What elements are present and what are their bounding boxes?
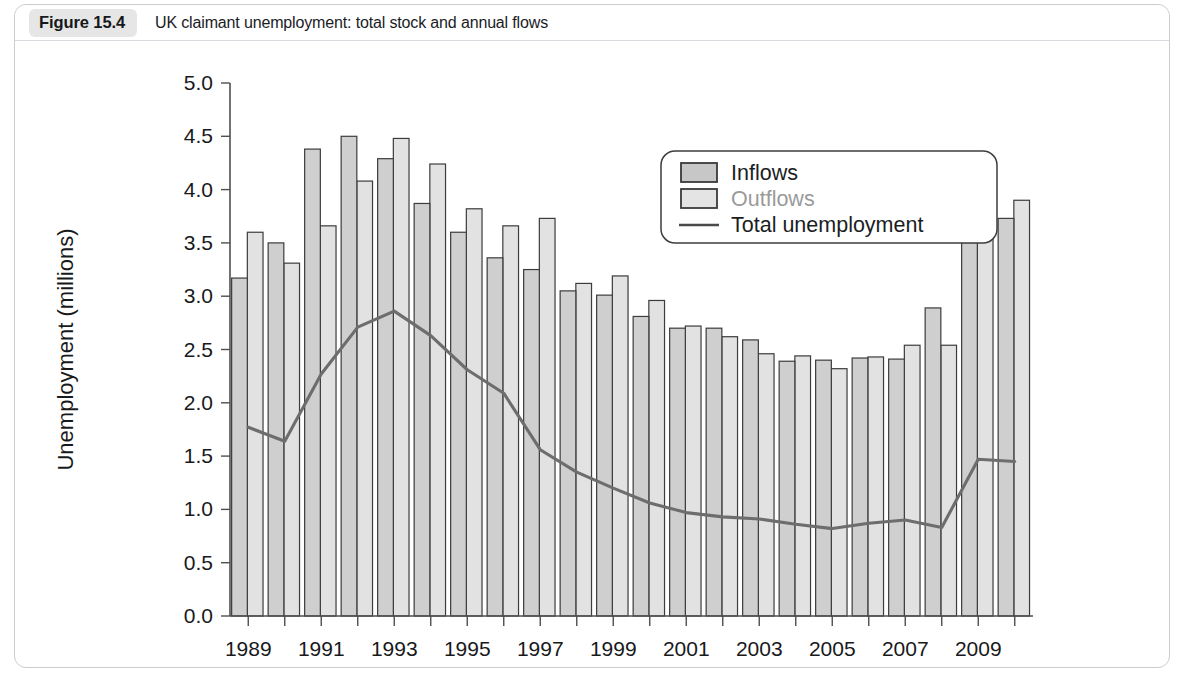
- bar-outflows: [758, 354, 774, 616]
- chart-plot-area: 0.00.51.01.52.02.53.03.54.04.55.0 198919…: [15, 41, 1169, 667]
- bar-outflows: [357, 181, 373, 616]
- bar-inflows: [889, 359, 905, 616]
- y-tick-label: 3.0: [184, 284, 213, 307]
- x-tick-label: 1993: [371, 637, 418, 660]
- y-tick-label: 4.5: [184, 124, 213, 147]
- figure-card: Figure 15.4 UK claimant unemployment: to…: [14, 4, 1170, 668]
- bar-outflows: [1014, 200, 1030, 616]
- x-tick-label: 2003: [736, 637, 783, 660]
- y-tick-label: 3.5: [184, 231, 213, 254]
- bar-outflows: [247, 232, 263, 616]
- x-tick-label: 2005: [809, 637, 856, 660]
- y-tick-label: 2.5: [184, 338, 213, 361]
- bar-inflows: [852, 358, 868, 616]
- bar-outflows: [539, 218, 555, 616]
- bar-inflows: [633, 316, 649, 616]
- bar-inflows: [451, 232, 467, 616]
- chart-legend: Inflows Outflows Total unemployment: [661, 151, 997, 243]
- y-tick-label: 1.0: [184, 497, 213, 520]
- bar-inflows: [998, 218, 1014, 616]
- bar-outflows: [576, 283, 592, 616]
- bar-outflows: [649, 300, 665, 616]
- x-tick-label: 1997: [517, 637, 564, 660]
- bar-inflows: [670, 328, 686, 616]
- y-tick-label: 2.0: [184, 391, 213, 414]
- x-tick-label: 1999: [590, 637, 637, 660]
- bar-outflows: [831, 369, 847, 616]
- bar-inflows: [560, 291, 576, 616]
- x-tick-label: 1989: [225, 637, 272, 660]
- bar-outflows: [795, 356, 811, 616]
- figure-title: UK claimant unemployment: total stock an…: [155, 14, 548, 32]
- bar-inflows: [487, 258, 503, 616]
- legend-swatch-inflows: [681, 163, 717, 182]
- bar-outflows: [466, 209, 482, 616]
- y-axis-ticks: 0.00.51.01.52.02.53.03.54.04.55.0: [184, 71, 230, 627]
- legend-swatch-outflows: [681, 189, 717, 208]
- bar-inflows: [414, 203, 430, 616]
- bar-inflows: [341, 136, 357, 616]
- legend-label-total: Total unemployment: [731, 213, 923, 237]
- bar-inflows: [816, 360, 832, 616]
- bar-outflows: [393, 138, 409, 616]
- x-tick-label: 1991: [298, 637, 345, 660]
- bar-inflows: [597, 295, 613, 616]
- y-tick-label: 0.5: [184, 551, 213, 574]
- legend-label-outflows: Outflows: [731, 187, 815, 211]
- bar-inflows: [743, 340, 759, 616]
- bar-outflows: [430, 164, 446, 616]
- bar-outflows: [941, 345, 957, 616]
- unemployment-chart: 0.00.51.01.52.02.53.03.54.04.55.0 198919…: [15, 41, 1169, 667]
- bar-inflows: [268, 243, 284, 616]
- bar-inflows: [925, 308, 941, 616]
- bar-inflows: [232, 278, 248, 616]
- y-tick-label: 0.0: [184, 604, 213, 627]
- y-tick-label: 5.0: [184, 71, 213, 94]
- bar-inflows: [779, 361, 795, 616]
- figure-number-badge: Figure 15.4: [29, 9, 137, 37]
- bar-inflows: [706, 328, 722, 616]
- bar-outflows: [685, 326, 701, 616]
- x-axis-ticks: 1989199119931995199719992001200320052007…: [225, 616, 1015, 660]
- bar-outflows: [320, 226, 336, 616]
- bar-outflows: [868, 357, 884, 616]
- x-tick-label: 2001: [663, 637, 710, 660]
- y-axis-title: Unemployment (millions): [53, 228, 78, 470]
- bar-outflows: [977, 225, 993, 616]
- y-tick-label: 4.0: [184, 178, 213, 201]
- figure-header: Figure 15.4 UK claimant unemployment: to…: [15, 5, 1169, 41]
- x-tick-label: 1995: [444, 637, 491, 660]
- bar-outflows: [612, 276, 628, 616]
- x-tick-label: 2009: [955, 637, 1002, 660]
- bar-outflows: [722, 337, 738, 616]
- bar-outflows: [503, 226, 519, 616]
- legend-label-inflows: Inflows: [731, 161, 798, 185]
- bar-outflows: [904, 345, 920, 616]
- y-tick-label: 1.5: [184, 444, 213, 467]
- bar-inflows: [378, 159, 394, 616]
- x-tick-label: 2007: [882, 637, 929, 660]
